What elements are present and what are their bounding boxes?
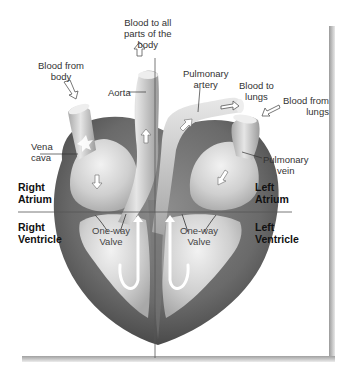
label-one-way-valve-left: One-way Valve — [180, 225, 218, 247]
label-blood-from-lungs: Blood from lungs — [283, 95, 329, 117]
label-aorta: Aorta — [108, 87, 131, 98]
label-left-atrium: Left Atrium — [255, 181, 289, 205]
label-blood-to-all-parts: Blood to all parts of the body — [124, 17, 172, 50]
arrow-blood-from-lungs-icon — [262, 105, 280, 116]
flow-arrows-external — [64, 42, 280, 116]
label-pulmonary-vein: Pulmonary vein — [263, 154, 308, 176]
label-left-ventricle: Left Ventricle — [255, 221, 299, 245]
label-pulmonary-artery: Pulmonary artery — [183, 68, 228, 90]
label-vena-cava: Vena cava — [31, 141, 53, 163]
label-right-atrium: Right Atrium — [18, 181, 52, 205]
label-blood-to-lungs: Blood to lungs — [239, 80, 274, 102]
label-one-way-valve-right: One-way Valve — [92, 225, 130, 247]
arrow-blood-from-body-icon — [64, 80, 78, 99]
label-blood-from-body: Blood from body — [38, 60, 84, 82]
label-right-ventricle: Right Ventricle — [18, 221, 62, 245]
heart-diagram: Blood to all parts of the body Blood fro… — [0, 0, 343, 372]
